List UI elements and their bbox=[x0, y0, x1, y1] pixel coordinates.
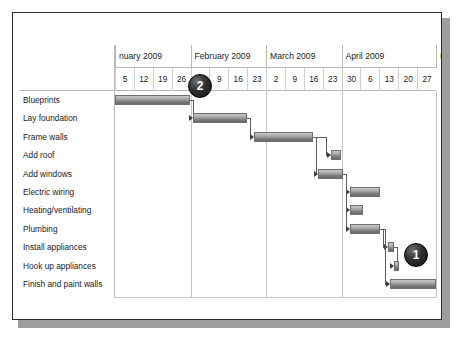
week-tick-cell: 19 bbox=[153, 68, 172, 91]
gantt-bar[interactable] bbox=[331, 150, 340, 160]
plot-baseline bbox=[115, 297, 436, 298]
month-gridline bbox=[342, 91, 343, 298]
gantt-chart: BlueprintsLay foundationFrame wallsAdd r… bbox=[20, 45, 436, 298]
task-name-row[interactable]: Add roof bbox=[20, 146, 114, 164]
gantt-bar[interactable] bbox=[388, 242, 394, 252]
week-tick-cell: 23 bbox=[247, 68, 266, 91]
callout-badge-2: 2 bbox=[188, 74, 212, 98]
week-tick-cell: 9 bbox=[209, 68, 228, 91]
task-name-row[interactable]: Hook up appliances bbox=[20, 257, 114, 275]
task-name-row[interactable]: Add windows bbox=[20, 165, 114, 183]
timeline-area: nuary 2009February 2009March 2009April 2… bbox=[115, 45, 436, 298]
dependency-link bbox=[346, 174, 347, 229]
gantt-bar[interactable] bbox=[254, 132, 313, 142]
task-name-column: BlueprintsLay foundationFrame wallsAdd r… bbox=[20, 45, 115, 298]
gantt-bar[interactable] bbox=[193, 113, 247, 123]
gantt-bar[interactable] bbox=[350, 187, 380, 197]
task-column-header bbox=[20, 45, 114, 91]
gantt-bar[interactable] bbox=[350, 224, 380, 234]
week-tick-cell: 20 bbox=[398, 68, 417, 91]
slide-frame: BlueprintsLay foundationFrame wallsAdd r… bbox=[12, 12, 442, 320]
task-name-row[interactable]: Finish and paint walls bbox=[20, 275, 114, 293]
task-name-row[interactable]: Frame walls bbox=[20, 128, 114, 146]
week-tick-cell: 16 bbox=[228, 68, 247, 91]
week-tick-cell: 12 bbox=[134, 68, 153, 91]
week-tick-cell: 6 bbox=[360, 68, 379, 91]
task-name-row[interactable]: Install appliances bbox=[20, 238, 114, 256]
week-tick-cell: 23 bbox=[323, 68, 342, 91]
gantt-bar[interactable] bbox=[394, 261, 399, 271]
month-header-cell: I bbox=[436, 45, 455, 68]
callout-badge-1: 1 bbox=[404, 243, 428, 267]
week-tick-cell: 9 bbox=[285, 68, 304, 91]
week-tick-cell: 5 bbox=[115, 68, 134, 91]
task-name-row[interactable]: Plumbing bbox=[20, 220, 114, 238]
week-tick-cell: 13 bbox=[379, 68, 398, 91]
task-name-row[interactable]: Blueprints bbox=[20, 91, 114, 109]
dependency-link bbox=[313, 137, 326, 138]
task-name-row[interactable]: Heating/ventilating bbox=[20, 201, 114, 219]
month-gridline bbox=[436, 91, 437, 298]
gantt-bar[interactable] bbox=[318, 169, 343, 179]
dependency-link bbox=[385, 229, 386, 284]
week-tick-cell: 30 bbox=[342, 68, 361, 91]
task-name-row[interactable]: Electric wiring bbox=[20, 183, 114, 201]
month-header-row: nuary 2009February 2009March 2009April 2… bbox=[115, 45, 436, 68]
task-name-list: BlueprintsLay foundationFrame wallsAdd r… bbox=[20, 91, 114, 293]
month-header-cell: April 2009 bbox=[342, 45, 436, 68]
week-tick-cell: 27 bbox=[417, 68, 436, 91]
gantt-bar[interactable] bbox=[390, 279, 436, 289]
month-header-cell: February 2009 bbox=[191, 45, 267, 68]
week-tick-cell: 2 bbox=[266, 68, 285, 91]
month-header-cell: nuary 2009 bbox=[115, 45, 191, 68]
gantt-plot-area bbox=[115, 91, 436, 298]
month-gridline bbox=[191, 91, 192, 298]
gantt-bar[interactable] bbox=[350, 205, 363, 215]
week-header-row: 5121926291623291623306132027 bbox=[115, 68, 436, 91]
week-tick-cell: 16 bbox=[304, 68, 323, 91]
month-gridline bbox=[266, 91, 267, 298]
month-header-cell: March 2009 bbox=[266, 45, 342, 68]
gantt-bar[interactable] bbox=[115, 95, 190, 105]
task-name-row[interactable]: Lay foundation bbox=[20, 109, 114, 127]
